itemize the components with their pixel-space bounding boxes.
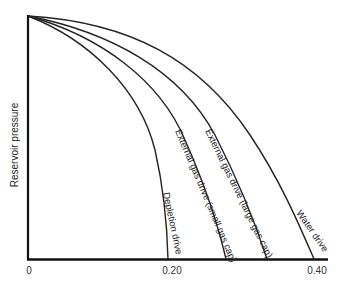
curve-depletion-drive (28, 16, 168, 259)
label-depletion-drive: Depletion drive (161, 191, 185, 255)
chart: 0 0.20 0.40 Reservoir pressure Depletion… (0, 0, 340, 282)
label-large-gas-cap: External gas drive (large gas cap) (203, 127, 275, 259)
y-axis-label: Reservoir pressure (9, 102, 20, 187)
x-tick-040: 0.40 (307, 265, 327, 276)
curve-large-gas-cap (28, 16, 267, 259)
curve-small-gas-cap (28, 16, 226, 259)
label-water-drive: Water drive (294, 208, 331, 254)
x-tick-020: 0.20 (162, 265, 182, 276)
x-tick-0: 0 (26, 265, 32, 276)
